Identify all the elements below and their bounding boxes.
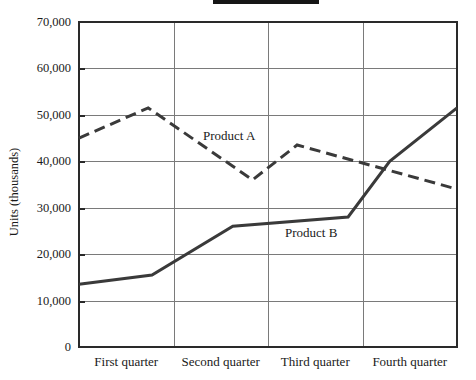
y-tick-label: 30,000 bbox=[9, 200, 71, 216]
y-tick-label: 70,000 bbox=[9, 14, 71, 30]
chart-figure: Units (thousands) 010,00020,00030,00040,… bbox=[0, 0, 476, 380]
x-category-label: Second quarter bbox=[182, 354, 260, 370]
y-tick-label: 40,000 bbox=[9, 153, 71, 169]
y-tick-label: 20,000 bbox=[9, 246, 71, 262]
x-category-label: First quarter bbox=[94, 354, 158, 370]
x-category-label: Third quarter bbox=[281, 354, 350, 370]
series-label-product-b: Product B bbox=[285, 225, 337, 241]
plot-svg bbox=[0, 0, 476, 380]
series-label-product-a: Product A bbox=[203, 128, 255, 144]
x-category-label: Fourth quarter bbox=[372, 354, 447, 370]
y-tick-label: 50,000 bbox=[9, 107, 71, 123]
y-tick-label: 0 bbox=[9, 339, 71, 355]
y-tick-label: 60,000 bbox=[9, 60, 71, 76]
y-tick-label: 10,000 bbox=[9, 293, 71, 309]
